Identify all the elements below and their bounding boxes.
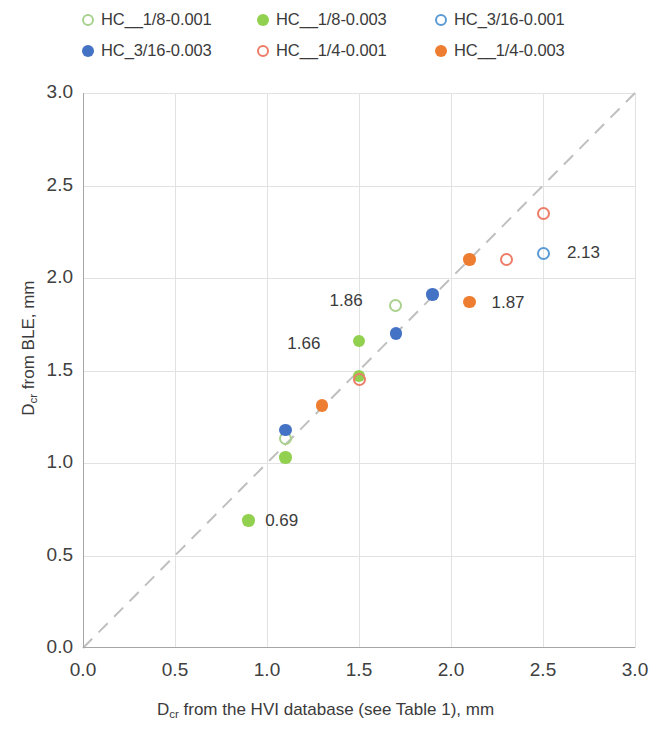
point-value-label: 0.69 — [265, 511, 298, 531]
data-point — [426, 288, 438, 300]
y-axis-tick-label: 3.0 — [21, 81, 73, 103]
legend-item-hc-3-16-0003[interactable]: HC_3/16-0.003 — [82, 41, 257, 60]
y-axis-tick-label: 2.5 — [21, 174, 73, 196]
legend-marker-open-circle-green-light — [82, 14, 94, 26]
data-point — [353, 373, 366, 386]
legend-row-top: HC__1/8-0.001 HC__1/8-0.003 HC_3/16-0.00… — [82, 4, 642, 35]
x-axis-tick-label: 3.0 — [605, 659, 651, 681]
y-axis-title: Dcr from BLE, mm — [19, 198, 39, 498]
legend-marker-open-circle-blue-light — [435, 14, 447, 26]
scatter-chart: HC__1/8-0.001 HC__1/8-0.003 HC_3/16-0.00… — [0, 0, 651, 732]
data-point — [537, 207, 550, 220]
x-axis-title-subscript: cr — [169, 708, 179, 720]
y-axis-line — [83, 93, 84, 648]
point-value-label: 1.66 — [287, 334, 320, 354]
legend-marker-filled-circle-blue — [82, 45, 94, 57]
point-value-label: 1.86 — [330, 291, 363, 311]
legend-label: HC__1/8-0.003 — [276, 10, 387, 29]
x-axis-tick-label: 2.0 — [421, 659, 481, 681]
point-value-label: 2.13 — [567, 243, 600, 263]
legend-row-bottom: HC_3/16-0.003 HC__1/4-0.001 HC__1/4-0.00… — [82, 35, 642, 66]
chart-legend: HC__1/8-0.001 HC__1/8-0.003 HC_3/16-0.00… — [82, 4, 642, 66]
y-axis-title-subscript: cr — [27, 394, 39, 404]
x-axis-line — [83, 647, 635, 648]
x-axis-tick-label: 1.0 — [237, 659, 297, 681]
legend-item-hc-1-4-0003[interactable]: HC__1/4-0.003 — [435, 41, 635, 60]
x-axis-tick-label: 1.5 — [329, 659, 389, 681]
data-point — [390, 327, 402, 339]
data-point — [463, 253, 475, 265]
legend-item-hc-3-16-0001[interactable]: HC_3/16-0.001 — [435, 10, 635, 29]
y-axis-title-rest: from BLE, mm — [19, 280, 38, 393]
x-axis-tick-label: 0.0 — [53, 659, 113, 681]
gridline-vertical — [635, 93, 636, 648]
legend-label: HC__1/8-0.001 — [101, 10, 212, 29]
x-axis-title-d: D — [157, 700, 169, 719]
legend-label: HC_3/16-0.003 — [101, 41, 212, 60]
x-axis-title: Dcr from the HVI database (see Table 1),… — [0, 700, 651, 720]
legend-marker-filled-circle-orange — [435, 45, 447, 57]
data-point — [463, 296, 475, 308]
data-point — [537, 247, 550, 260]
legend-marker-filled-circle-green — [257, 14, 269, 26]
legend-label: HC_3/16-0.001 — [454, 10, 565, 29]
legend-label: HC__1/4-0.001 — [276, 41, 387, 60]
y-axis-tick-label: 0.0 — [21, 636, 73, 658]
x-axis-tick-label: 2.5 — [513, 659, 573, 681]
legend-marker-open-circle-red — [257, 45, 269, 57]
x-axis-tick-label: 0.5 — [145, 659, 205, 681]
x-axis-title-rest: from the HVI database (see Table 1), mm — [179, 700, 494, 719]
point-value-label: 1.87 — [491, 293, 524, 313]
legend-item-hc-1-8-0001[interactable]: HC__1/8-0.001 — [82, 10, 257, 29]
plot-area: 0.691.661.861.872.13 — [83, 93, 635, 648]
y-axis-title-d: D — [19, 403, 38, 415]
legend-item-hc-1-4-0001[interactable]: HC__1/4-0.001 — [257, 41, 435, 60]
data-point — [279, 451, 291, 463]
y-axis-tick-label: 0.5 — [21, 544, 73, 566]
data-point — [242, 514, 254, 526]
legend-item-hc-1-8-0003[interactable]: HC__1/8-0.003 — [257, 10, 435, 29]
legend-label: HC__1/4-0.003 — [454, 41, 565, 60]
data-point — [500, 253, 513, 266]
data-point — [279, 424, 291, 436]
